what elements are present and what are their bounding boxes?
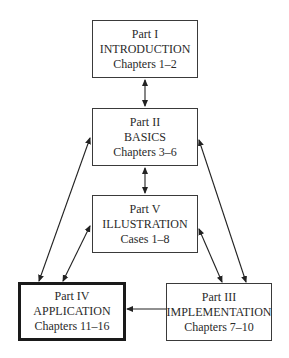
node-part-2-basics: Part II BASICS Chapters 3–6 — [92, 108, 198, 166]
node-range: Cases 1–8 — [121, 232, 170, 247]
node-title: INTRODUCTION — [100, 42, 191, 57]
node-part-label: Part II — [130, 115, 160, 130]
node-title: IMPLEMENTATION — [166, 305, 271, 320]
node-title: APPLICATION — [33, 304, 110, 319]
node-part-4-application: Part IV APPLICATION Chapters 11–16 — [18, 282, 126, 341]
node-title: ILLUSTRATION — [102, 217, 187, 232]
node-part-label: Part V — [130, 202, 161, 217]
node-part-label: Part III — [202, 290, 236, 305]
node-part-label: Part IV — [55, 289, 90, 304]
node-range: Chapters 11–16 — [34, 319, 109, 334]
arrow-illustration-application — [63, 226, 90, 281]
node-part-label: Part I — [132, 27, 158, 42]
node-part-3-implementation: Part III IMPLEMENTATION Chapters 7–10 — [166, 283, 272, 341]
arrow-illustration-implementation — [199, 229, 222, 282]
arrow-basics-implementation — [199, 140, 246, 282]
node-range: Chapters 3–6 — [113, 145, 177, 160]
node-range: Chapters 7–10 — [184, 320, 254, 335]
node-part-1-introduction: Part I INTRODUCTION Chapters 1–2 — [92, 20, 198, 78]
arrow-basics-application — [39, 138, 90, 281]
node-range: Chapters 1–2 — [113, 57, 177, 72]
node-part-5-illustration: Part V ILLUSTRATION Cases 1–8 — [92, 195, 198, 253]
node-title: BASICS — [124, 130, 166, 145]
